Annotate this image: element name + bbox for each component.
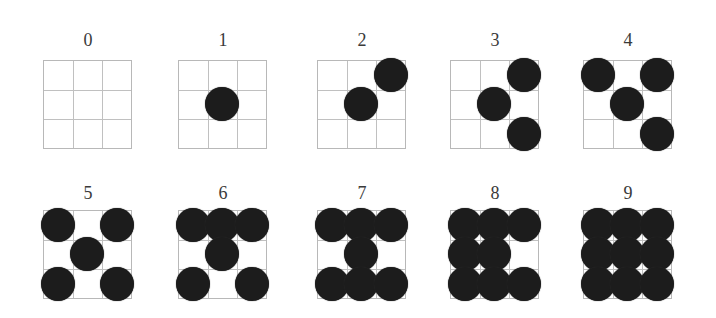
dot-icon	[100, 208, 134, 242]
dot-icon	[581, 58, 615, 92]
dot-icon	[235, 208, 269, 242]
panel-label: 4	[583, 31, 673, 49]
dot-icon	[70, 237, 104, 271]
dot-icon	[344, 87, 378, 121]
dot-icon	[640, 267, 674, 301]
three-by-three-grid	[450, 210, 539, 299]
three-by-three-grid	[583, 60, 672, 149]
dot-icon	[100, 267, 134, 301]
dot-icon	[507, 267, 541, 301]
three-by-three-grid	[317, 210, 406, 299]
dot-icon	[507, 58, 541, 92]
dot-icon	[640, 117, 674, 151]
dot-icon	[374, 208, 408, 242]
dot-icon	[205, 87, 239, 121]
three-by-three-grid	[43, 210, 132, 299]
panel-label: 2	[317, 31, 407, 49]
dot-icon	[640, 58, 674, 92]
panel-label: 6	[178, 184, 268, 202]
dot-icon	[41, 267, 75, 301]
three-by-three-grid	[178, 60, 267, 149]
dot-icon	[374, 58, 408, 92]
dot-icon	[176, 267, 210, 301]
dot-icon	[235, 267, 269, 301]
dot-icon	[41, 208, 75, 242]
dot-icon	[507, 117, 541, 151]
three-by-three-grid	[178, 210, 267, 299]
three-by-three-grid	[583, 210, 672, 299]
dot-icon	[610, 87, 644, 121]
three-by-three-grid	[450, 60, 539, 149]
three-by-three-grid	[317, 60, 406, 149]
dot-icon	[507, 208, 541, 242]
dot-icon	[374, 267, 408, 301]
panel-label: 8	[450, 184, 540, 202]
dot-icon	[205, 237, 239, 271]
panel-label: 7	[317, 184, 407, 202]
three-by-three-grid	[43, 60, 132, 149]
panel-label: 5	[43, 184, 133, 202]
panel-label: 3	[450, 31, 540, 49]
panel-label: 0	[43, 31, 133, 49]
panel-label: 1	[178, 31, 268, 49]
panel-label: 9	[583, 184, 673, 202]
dot-icon	[477, 87, 511, 121]
